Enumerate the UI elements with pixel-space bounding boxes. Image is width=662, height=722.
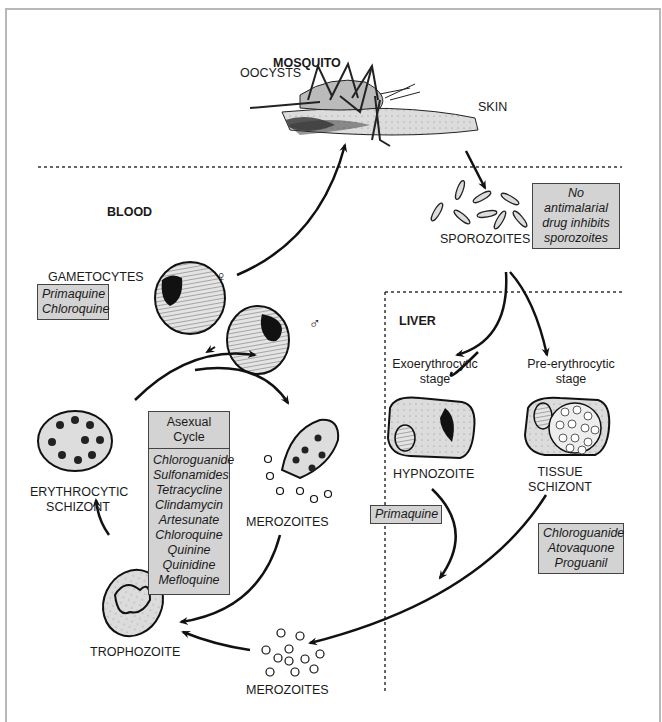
male-symbol: ♂: [309, 315, 321, 333]
drugbox-gametocytes: Primaquine Chloroquine: [37, 284, 109, 320]
hypnozoite-cell: [388, 397, 475, 458]
label-preerythrocytic-stage: Pre-erythrocytic stage: [523, 357, 619, 387]
drugbox-tissue-schizont: Chloroguanide Atovaquone Proguanil: [538, 523, 624, 574]
region-liver: LIVER: [399, 314, 436, 328]
drugbox-asexual-cycle: Asexual Cycle Chloroguanide Sulfonamides…: [148, 411, 230, 595]
arrow-sporozoites-to-preerythrocytic: [510, 272, 547, 355]
asexual-cycle-title: Asexual Cycle: [149, 412, 229, 449]
tissue-schizont-cell: [525, 398, 609, 455]
label-tissue-schizont: TISSUE SCHIZONT: [528, 465, 592, 495]
label-gametocytes: GAMETOCYTES: [48, 270, 144, 285]
arrow-skin-to-sporozoites: [466, 151, 485, 188]
gametocyte-male: [227, 306, 289, 374]
label-oocysts: OOCYSTS: [240, 66, 301, 81]
erythrocytic-schizont-cell: [38, 411, 112, 471]
arrow-to-blood-merozoites: [195, 368, 288, 403]
label-erythrocytic-schizont: ERYTHROCYTIC SCHIZONT: [30, 485, 126, 515]
arrow-sporozoites-to-exoerythrocytic: [457, 272, 506, 355]
arrow-hypnozoite-to-merozoites: [432, 489, 456, 578]
label-exoerythrocytic-stage: Exoerythrocytic stage: [386, 357, 484, 387]
drugbox-hypnozoite: Primaquine: [370, 505, 442, 524]
female-symbol: ♀: [215, 268, 227, 286]
arrow-gametocytes-to-mosquito: [237, 145, 345, 275]
label-merozoites-liver: MEROZOITES: [246, 683, 329, 698]
label-skin: SKIN: [478, 100, 507, 115]
region-blood: BLOOD: [107, 205, 152, 219]
ruptured-cell-merozoites: [265, 420, 339, 503]
drugbox-sporozoites: No antimalarial drug inhibits sporozoite…: [532, 183, 620, 249]
label-sporozoites: SPOROZOITES: [440, 232, 530, 247]
label-merozoites-blood: MEROZOITES: [246, 515, 329, 530]
liver-merozoites: [262, 629, 324, 676]
sporozoites-illustration: [429, 180, 528, 231]
arrow-to-gametocytes: [207, 347, 215, 352]
label-hypnozoite: HYPNOZOITE: [393, 467, 474, 482]
label-trophozoite: TROPHOZOITE: [90, 645, 180, 660]
arrow-liver-merozoites-to-trophozoite: [183, 632, 250, 650]
